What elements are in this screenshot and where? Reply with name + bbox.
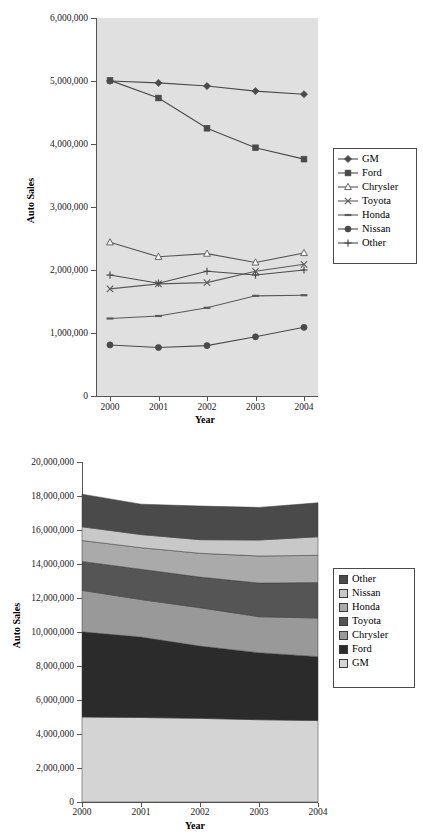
chart1-legend-label: Toyota	[362, 195, 391, 207]
chart2-legend-label: Chrysler	[352, 629, 388, 641]
chart1-legend-label: GM	[362, 153, 379, 165]
chart1-legend-item-toyota[interactable]: Toyota	[337, 194, 412, 208]
chart1-legend-item-gm[interactable]: GM	[337, 152, 412, 166]
chart2-legend[interactable]: OtherNissanHondaToyotaChryslerFordGM	[333, 568, 415, 688]
chart1-legend-item-nissan[interactable]: Nissan	[337, 222, 412, 236]
chart2-legend-item-ford[interactable]: Ford	[337, 642, 410, 656]
legend-color-swatch	[339, 645, 348, 654]
chart1-legend-label: Ford	[362, 167, 382, 179]
chart1-legend-label: Honda	[362, 209, 390, 221]
legend-marker-x-icon	[337, 195, 359, 207]
chart2-legend-item-honda[interactable]: Honda	[337, 600, 410, 614]
legend-marker-plus-icon	[337, 237, 359, 249]
chart2-legend-item-other[interactable]: Other	[337, 572, 410, 586]
chart1-legend-label: Nissan	[362, 223, 391, 235]
chart2-y-axis-title: Auto Sales	[11, 586, 22, 666]
chart1-legend[interactable]: GMFordChryslerToyotaHondaNissanOther	[333, 148, 417, 264]
chart2-x-axis-title: Year	[85, 820, 305, 831]
auto-sales-line-chart: 01,000,0002,000,0003,000,0004,000,0005,0…	[0, 0, 423, 425]
chart1-legend-item-other[interactable]: Other	[337, 236, 412, 250]
legend-marker-triangle-open-icon	[337, 181, 359, 193]
legend-marker-circle-icon	[337, 223, 359, 235]
chart2-legend-item-nissan[interactable]: Nissan	[337, 586, 410, 600]
legend-marker-dash-icon	[337, 209, 359, 221]
auto-sales-area-chart: 02,000,0004,000,0006,000,0008,000,00010,…	[0, 440, 423, 835]
chart2-legend-label: Nissan	[352, 587, 381, 599]
chart1-legend-item-honda[interactable]: Honda	[337, 208, 412, 222]
legend-color-swatch	[339, 631, 348, 640]
chart1-legend-label: Chrysler	[362, 181, 398, 193]
chart2-legend-label: GM	[352, 657, 369, 669]
chart1-legend-item-chrysler[interactable]: Chrysler	[337, 180, 412, 194]
chart1-y-axis-title: Auto Sales	[25, 161, 36, 241]
chart2-legend-label: Ford	[352, 643, 372, 655]
legend-color-swatch	[339, 617, 348, 626]
chart1-legend-item-ford[interactable]: Ford	[337, 166, 412, 180]
chart2-legend-label: Honda	[352, 601, 380, 613]
legend-color-swatch	[339, 603, 348, 612]
chart2-legend-item-gm[interactable]: GM	[337, 656, 410, 670]
chart2-legend-label: Toyota	[352, 615, 381, 627]
legend-color-swatch	[339, 589, 348, 598]
page-root: 01,000,0002,000,0003,000,0004,000,0005,0…	[0, 0, 423, 835]
legend-marker-square-icon	[337, 167, 359, 179]
legend-color-swatch	[339, 575, 348, 584]
legend-color-swatch	[339, 659, 348, 668]
chart1-legend-label: Other	[362, 237, 386, 249]
chart1-x-axis-title: Year	[95, 414, 315, 425]
chart2-legend-item-chrysler[interactable]: Chrysler	[337, 628, 410, 642]
legend-marker-diamond-icon	[337, 153, 359, 165]
chart2-legend-label: Other	[352, 573, 376, 585]
chart2-legend-item-toyota[interactable]: Toyota	[337, 614, 410, 628]
